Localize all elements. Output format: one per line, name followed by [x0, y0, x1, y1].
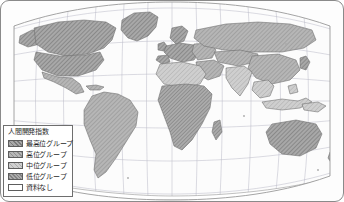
legend-swatch-nodata [8, 184, 23, 191]
legend-swatch-low [8, 173, 23, 180]
legend-swatch-medium [8, 162, 23, 169]
map-legend: 人間開発指数 最高位グループ 高位グループ 中位グループ 低位グループ 資料なし [3, 125, 73, 197]
legend-title: 人間開発指数 [8, 128, 69, 137]
legend-item-nodata: 資料なし [8, 182, 69, 193]
legend-item-low: 低位グループ [8, 171, 69, 182]
figure-root: 人間開発指数 最高位グループ 高位グループ 中位グループ 低位グループ 資料なし [0, 0, 344, 202]
region-philippines [288, 84, 298, 94]
legend-label-nodata: 資料なし [26, 184, 53, 192]
legend-swatch-highest [8, 140, 23, 147]
legend-item-medium: 中位グループ [8, 160, 69, 171]
region-russia [194, 22, 316, 52]
legend-item-highest: 最高位グループ [8, 138, 69, 149]
legend-label-high: 高位グループ [26, 151, 66, 159]
legend-item-high: 高位グループ [8, 149, 69, 160]
legend-swatch-high [8, 151, 23, 158]
legend-label-medium: 中位グループ [26, 162, 66, 170]
legend-label-low: 低位グループ [26, 173, 66, 181]
legend-label-highest: 最高位グループ [26, 140, 73, 148]
